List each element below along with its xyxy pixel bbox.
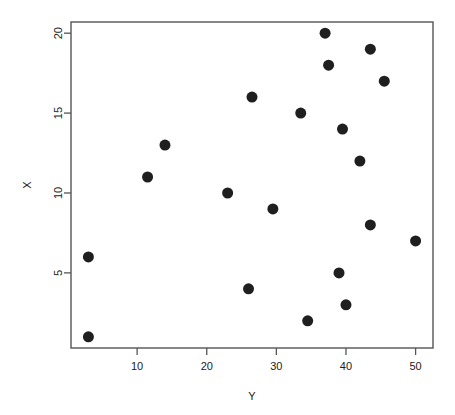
data-point xyxy=(83,331,94,342)
x-axis-tick-labels: 1020304050 xyxy=(131,360,422,372)
data-point xyxy=(354,156,365,167)
x-tick-label: 40 xyxy=(340,360,352,372)
data-point xyxy=(83,251,94,262)
data-point xyxy=(247,92,258,103)
data-point xyxy=(142,172,153,183)
y-tick-label: 5 xyxy=(52,270,64,276)
plot-frame xyxy=(71,22,433,348)
data-point xyxy=(337,124,348,135)
x-tick-label: 50 xyxy=(409,360,421,372)
data-point xyxy=(379,76,390,87)
x-tick-label: 20 xyxy=(201,360,213,372)
y-tick-label: 20 xyxy=(52,27,64,39)
x-axis-title: Y xyxy=(248,390,256,402)
data-point xyxy=(302,315,313,326)
scatter-plot-figure: 1020304050 5101520 Y X xyxy=(0,0,455,415)
data-point xyxy=(222,187,233,198)
y-axis-tick-labels: 5101520 xyxy=(52,27,64,276)
data-points-group xyxy=(83,28,421,343)
y-tick-label: 15 xyxy=(52,107,64,119)
data-point xyxy=(320,28,331,39)
y-axis-ticks xyxy=(64,33,71,273)
x-tick-label: 10 xyxy=(131,360,143,372)
data-point xyxy=(334,267,345,278)
x-tick-label: 30 xyxy=(270,360,282,372)
plot-canvas: 1020304050 5101520 Y X xyxy=(0,0,455,415)
data-point xyxy=(365,44,376,55)
y-axis-title: X xyxy=(21,181,33,189)
data-point xyxy=(410,235,421,246)
y-tick-label: 10 xyxy=(52,187,64,199)
data-point xyxy=(243,283,254,294)
data-point xyxy=(365,219,376,230)
x-axis-ticks xyxy=(137,348,415,355)
data-point xyxy=(340,299,351,310)
data-point xyxy=(323,60,334,71)
data-point xyxy=(295,108,306,119)
data-point xyxy=(267,203,278,214)
data-point xyxy=(159,140,170,151)
